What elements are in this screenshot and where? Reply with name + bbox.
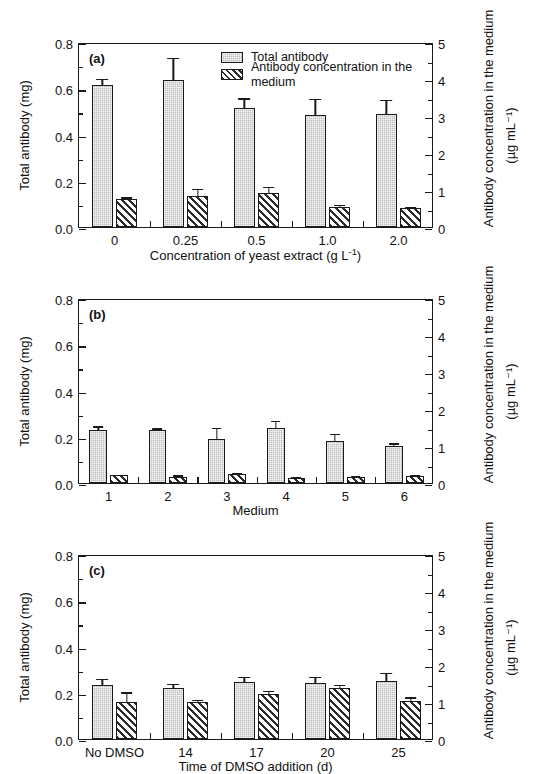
y-tick-left-minor: [79, 323, 83, 324]
y-tick-right: [425, 155, 432, 156]
y-tick-left: [79, 90, 86, 91]
error-bar-total-antibody: [305, 99, 326, 115]
x-tick: [197, 477, 198, 483]
y-tick-right: [425, 118, 432, 119]
y-tick-right-minor: [428, 467, 432, 468]
error-bar-cap: [380, 100, 392, 101]
y-tick-left-minor: [79, 113, 83, 114]
error-bar-medium-concentration: [406, 475, 424, 476]
y-tick-right: [425, 337, 432, 338]
error-bar-medium-concentration: [258, 187, 279, 193]
y-tick-right-minor: [428, 686, 432, 687]
error-bar-medium-concentration: [116, 197, 137, 198]
x-tick-label: 0.25: [173, 234, 198, 247]
error-bar-cap: [292, 477, 302, 478]
error-bar-cap: [238, 98, 250, 99]
bar-medium-concentration: [258, 193, 279, 227]
error-bar-cap: [121, 197, 133, 198]
error-bar-total-antibody: [326, 434, 344, 441]
y-tick-left-minor: [79, 462, 83, 463]
error-bar-total-antibody: [208, 428, 226, 439]
panel-label-c: (c): [89, 563, 105, 578]
y-tick-label-left: 0.8: [55, 38, 73, 51]
error-bar-medium-concentration: [347, 476, 365, 477]
y-tick-label-left: 0.4: [55, 130, 73, 143]
bar-total-antibody: [163, 80, 184, 227]
x-tick-label: 1.0: [318, 234, 336, 247]
x-tick: [221, 221, 222, 227]
error-bar-stem: [386, 100, 387, 114]
plot-area-b: (b) 0.00.20.40.60.8012345123456: [78, 299, 433, 484]
y-tick-right: [425, 374, 432, 375]
bar-medium-concentration: [187, 702, 208, 739]
error-bar-total-antibody: [92, 79, 113, 85]
y-tick-left: [79, 649, 86, 650]
error-bar-total-antibody: [234, 98, 255, 108]
error-bar-total-antibody: [92, 679, 113, 685]
y-tick-label-left: 0.6: [55, 596, 73, 609]
error-bar-cap: [330, 434, 340, 435]
y-tick-right-minor: [428, 100, 432, 101]
bar-total-antibody: [267, 428, 285, 483]
error-bar-cap: [167, 684, 179, 685]
y-tick-left: [79, 602, 86, 603]
plot-area-c: (c) 0.00.20.40.60.8012345No DMSO14172025: [78, 555, 433, 740]
x-tick-label: 3: [223, 490, 230, 503]
error-bar-cap: [351, 476, 361, 477]
y-tick-left: [79, 137, 86, 138]
x-tick: [363, 733, 364, 739]
x-tick-label: 5: [342, 490, 349, 503]
error-bar-stem: [315, 99, 316, 115]
x-tick: [150, 221, 151, 227]
bar-total-antibody: [326, 441, 344, 483]
y-tick-left: [79, 44, 86, 45]
error-bar-cap: [405, 207, 417, 208]
y-tick-left: [79, 393, 86, 394]
x-tick: [138, 477, 139, 483]
bar-total-antibody: [92, 685, 113, 739]
y-axis-units-right: (µg mL⁻¹): [500, 43, 520, 228]
y-tick-right-minor: [428, 612, 432, 613]
error-bar-stem: [126, 692, 127, 702]
y-tick-label-left: 0.2: [55, 176, 73, 189]
bar-medium-concentration: [228, 474, 246, 483]
bar-medium-concentration: [329, 688, 350, 739]
error-bar-cap: [96, 679, 108, 680]
x-tick-label: 1: [105, 490, 112, 503]
y-tick-right: [425, 81, 432, 82]
y-tick-right-minor: [428, 649, 432, 650]
x-tick-label: 2.0: [389, 234, 407, 247]
error-bar-total-antibody: [149, 428, 167, 429]
x-tick: [363, 221, 364, 227]
x-tick: [375, 477, 376, 483]
y-tick-right: [425, 300, 432, 301]
bar-total-antibody: [163, 688, 184, 739]
error-bar-medium-concentration: [187, 189, 208, 196]
error-bar-total-antibody: [305, 677, 326, 683]
x-tick-label: 25: [391, 746, 405, 759]
error-bar-medium-concentration: [258, 691, 279, 694]
y-tick-label-right: 2: [438, 405, 445, 418]
y-tick-right: [425, 593, 432, 594]
y-tick-label-left: 0.4: [55, 386, 73, 399]
y-tick-label-left: 0.2: [55, 688, 73, 701]
error-bar-cap: [153, 428, 163, 429]
bar-total-antibody: [92, 85, 113, 227]
error-bar-total-antibody: [89, 426, 107, 430]
x-tick: [257, 477, 258, 483]
y-tick-left-minor: [79, 416, 83, 417]
error-bar-cap: [263, 187, 275, 188]
y-tick-left: [79, 300, 86, 301]
error-bar-total-antibody: [376, 100, 397, 114]
error-bar-medium-concentration: [110, 475, 128, 476]
panel-label-b: (b): [89, 307, 106, 322]
bar-medium-concentration: [400, 701, 421, 739]
x-tick-label: 4: [282, 490, 289, 503]
y-tick-label-right: 5: [438, 294, 445, 307]
bar-total-antibody: [305, 683, 326, 739]
y-axis-units-right: (µg mL⁻¹): [500, 555, 520, 740]
y-tick-label-right: 0: [438, 479, 445, 492]
bar-medium-concentration: [110, 475, 128, 483]
legend-swatch-solid-icon: [221, 52, 243, 63]
